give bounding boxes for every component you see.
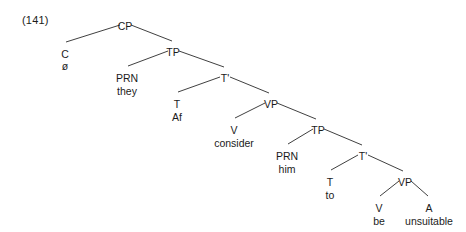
tree-node-c: C — [61, 49, 69, 60]
tree-terminal-prn2w: him — [279, 164, 296, 175]
tree-node-tp1: TP — [166, 47, 179, 58]
tree-branch-tbar2-vp2 — [368, 155, 403, 171]
tree-branch-tbar1-vp1 — [230, 77, 269, 93]
tree-branch-vp1-v1 — [235, 103, 265, 118]
tree-node-t1: T — [174, 99, 180, 110]
tree-branch-tp2-prn2 — [288, 129, 313, 144]
tree-branch-cp-tp1 — [131, 25, 172, 41]
tree-branch-cp-c — [66, 25, 120, 42]
tree-node-tbar1: T' — [221, 73, 229, 84]
tree-node-tbar2: T' — [359, 151, 367, 162]
syntax-tree-figure: (141) CPCøTPPRNtheyT'TAfVPVconsiderTPPRN… — [0, 0, 466, 232]
tree-terminal-prn1w: they — [117, 86, 137, 97]
tree-branches — [0, 0, 466, 232]
tree-node-tp2: TP — [311, 125, 324, 136]
tree-node-vp1: VP — [264, 99, 278, 110]
tree-branch-vp2-v2 — [380, 181, 399, 196]
tree-branch-vp1-tp2 — [277, 103, 316, 119]
tree-branch-tp1-tbar1 — [179, 51, 224, 67]
tree-node-cp: CP — [118, 21, 133, 32]
tree-node-a1: A — [425, 203, 432, 214]
tree-branch-vp2-a1 — [411, 181, 428, 196]
tree-terminal-t2word: to — [326, 190, 335, 201]
tree-terminal-a1word: unsuitable — [405, 216, 453, 227]
tree-node-v2: V — [375, 203, 382, 214]
tree-node-t2: T — [327, 177, 333, 188]
tree-terminal-cword: ø — [62, 61, 68, 72]
tree-terminal-t1word: Af — [172, 112, 182, 123]
tree-node-prn1: PRN — [116, 73, 138, 84]
tree-terminal-v2word: be — [373, 216, 385, 227]
tree-node-v1: V — [230, 125, 237, 136]
tree-node-vp2: VP — [398, 177, 412, 188]
tree-branch-tp2-tbar2 — [324, 129, 362, 145]
tree-branch-tbar1-t1 — [178, 77, 220, 92]
tree-branch-tbar2-t2 — [331, 155, 358, 170]
tree-branch-tp1-prn1 — [128, 51, 168, 66]
tree-terminal-v1word: consider — [214, 138, 254, 149]
tree-node-prn2: PRN — [276, 151, 298, 162]
